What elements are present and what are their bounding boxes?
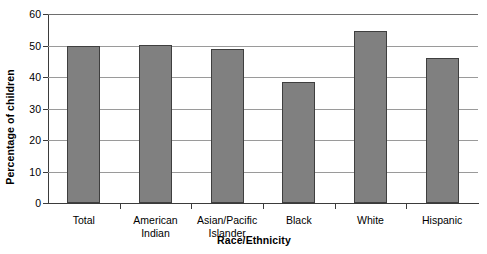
x-axis-tick-mark xyxy=(335,204,336,209)
x-axis-category-label-line: Black xyxy=(263,214,335,227)
gridline xyxy=(48,14,478,15)
bar xyxy=(426,58,459,203)
bar xyxy=(354,31,387,203)
bar xyxy=(139,45,172,203)
x-axis-category-label: Total xyxy=(48,214,120,227)
y-axis-tick-mark xyxy=(43,77,48,78)
x-axis-category-label: White xyxy=(335,214,407,227)
y-axis-tick-mark xyxy=(43,46,48,47)
y-axis-tick-mark xyxy=(43,109,48,110)
gridline xyxy=(48,172,478,173)
bar xyxy=(67,46,100,204)
x-axis-category-label-line: Asian/Pacific xyxy=(191,214,263,227)
x-axis-category-label: Black xyxy=(263,214,335,227)
y-axis-title: Percentage of children xyxy=(0,0,20,254)
x-axis-tick-mark xyxy=(406,204,407,209)
x-axis-category-label-line: Total xyxy=(48,214,120,227)
gridline xyxy=(48,109,478,110)
x-axis-category-label-line: Hispanic xyxy=(406,214,478,227)
plot-area: 0102030405060TotalAmericanIndianAsian/Pa… xyxy=(48,14,478,203)
gridline xyxy=(48,140,478,141)
y-axis-tick-mark xyxy=(43,140,48,141)
gridline xyxy=(48,46,478,47)
bar xyxy=(282,82,315,203)
y-axis-tick-mark xyxy=(43,14,48,15)
x-axis-category-label-line: White xyxy=(335,214,407,227)
gridline xyxy=(48,77,478,78)
x-axis-tick-mark xyxy=(263,204,264,209)
bar-chart: Percentage of children 0102030405060Tota… xyxy=(0,0,487,254)
x-axis-tick-mark xyxy=(191,204,192,209)
x-axis-title: Race/Ethnicity xyxy=(48,234,460,246)
x-axis-tick-mark xyxy=(120,204,121,209)
x-axis-category-label: Hispanic xyxy=(406,214,478,227)
x-axis-category-label-line: American xyxy=(120,214,192,227)
y-axis-tick-mark xyxy=(43,203,48,204)
bar xyxy=(211,49,244,203)
y-axis-tick-mark xyxy=(43,172,48,173)
